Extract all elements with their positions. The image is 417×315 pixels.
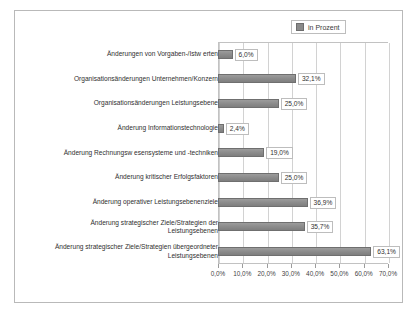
category-label: Organisationsänderungen Unternehmen/Konz… [18,75,218,83]
bar[interactable] [218,148,264,157]
bar-row: Änderungen von Vorgaben-/Istw erten6,0% [0,42,417,67]
bar[interactable] [218,222,305,231]
x-tick-label: 0,0% [211,270,226,277]
axis-tick [388,264,389,268]
bar-row: Änderung strategischer Ziele/Strategien … [0,239,417,264]
axis-tick [218,264,219,268]
bar[interactable] [218,173,279,182]
bar-row: Änderung strategischer Ziele/Strategien … [0,215,417,240]
category-label: Änderung Rechnungsw esensysteme und -tec… [18,149,218,157]
bar[interactable] [218,50,233,59]
x-tick-label: 10,0% [233,270,251,277]
category-label: Organisationsänderungen Leistungsebene [18,99,218,107]
bar-row: Änderung operativer Leistungsebenenziele… [0,190,417,215]
bar-value-label: 19,0% [266,147,293,159]
legend-swatch-icon [296,23,304,31]
bar-row: Änderung Informationstechnologie2,4% [0,116,417,141]
chart-legend: in Prozent [291,20,346,34]
x-tick-label: 50,0% [330,270,348,277]
x-tick-label: 40,0% [306,270,324,277]
axis-tick [291,264,292,268]
bar-row: Änderung Rechnungsw esensysteme und -tec… [0,141,417,166]
axis-tick [364,264,365,268]
axis-tick [339,264,340,268]
axis-tick [267,264,268,268]
x-tick-label: 70,0% [379,270,397,277]
bar-value-label: 36,9% [310,197,337,209]
category-label: Änderungen von Vorgaben-/Istw erten [18,50,218,58]
bar-value-label: 6,0% [235,49,258,61]
category-label: Änderung kritischer Erfolgsfaktoren [18,173,218,181]
bar-rows: Änderungen von Vorgaben-/Istw erten6,0%O… [0,42,417,264]
bar[interactable] [218,124,224,133]
bar-value-label: 35,7% [307,221,334,233]
legend-label: in Prozent [308,24,340,31]
bar[interactable] [218,247,371,256]
category-label: Änderung Informationstechnologie [18,124,218,132]
x-tick-label: 30,0% [282,270,300,277]
category-label: Änderung strategischer Ziele/Strategien … [18,219,218,236]
bar-row: Organisationsänderungen Leistungsebene25… [0,91,417,116]
bar[interactable] [218,74,296,83]
bar[interactable] [218,198,308,207]
bar-row: Änderung kritischer Erfolgsfaktoren25,0% [0,165,417,190]
axis-tick [315,264,316,268]
axis-tick [242,264,243,268]
x-axis-labels: 0,0%10,0%20,0%30,0%40,0%50,0%60,0%70,0% [190,270,416,284]
bar[interactable] [218,99,279,108]
bar-row: Organisationsänderungen Unternehmen/Konz… [0,67,417,92]
bar-value-label: 32,1% [298,73,325,85]
bar-value-label: 25,0% [281,98,308,110]
x-tick-label: 20,0% [258,270,276,277]
x-tick-label: 60,0% [355,270,373,277]
category-label: Änderung strategischer Ziele/Strategien … [18,243,218,260]
bar-value-label: 2,4% [226,123,249,135]
category-label: Änderung operativer Leistungsebenenziele [18,198,218,206]
bar-value-label: 63,1% [373,246,400,258]
bar-value-label: 25,0% [281,172,308,184]
